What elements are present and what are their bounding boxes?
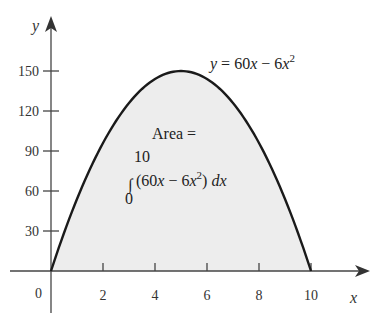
y-tick-label: 60	[25, 184, 39, 199]
x-tick-label: 8	[256, 288, 263, 303]
curve-equation-label: y = 60x − 6x2	[208, 52, 295, 73]
y-tick-label: 150	[18, 64, 39, 79]
origin-label: 0	[35, 286, 42, 301]
y-tick-label: 30	[25, 224, 39, 239]
y-axis-label: y	[30, 17, 40, 35]
y-tick-label: 90	[25, 144, 39, 159]
integral-upper-limit: 10	[134, 148, 150, 165]
integrand: (60x − 6x2) dx	[136, 169, 227, 190]
chart-canvas: 246810 306090120150 y x 0 y = 60x − 6x2 …	[0, 0, 378, 327]
integral-lower-limit: 0	[125, 190, 133, 207]
x-tick-label: 10	[304, 288, 318, 303]
x-tick-label: 2	[100, 288, 107, 303]
x-tick-label: 4	[152, 288, 159, 303]
x-axis-label: x	[349, 289, 357, 306]
area-label: Area =	[152, 125, 196, 142]
y-ticks: 306090120150	[18, 64, 59, 239]
x-tick-label: 6	[204, 288, 211, 303]
y-tick-label: 120	[18, 104, 39, 119]
